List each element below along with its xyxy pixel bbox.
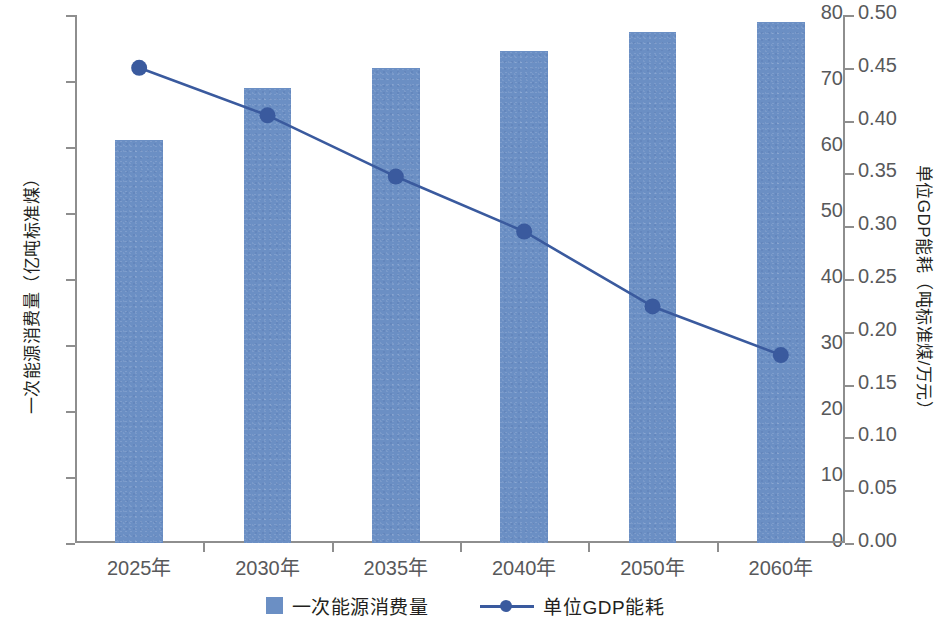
right-tick-mark [845, 437, 854, 439]
left-tick-mark [66, 81, 75, 83]
line-marker-circle-icon [773, 347, 789, 363]
x-tick-mark [332, 543, 334, 552]
legend-line-marker-icon [480, 597, 534, 614]
x-tick-label: 2025年 [79, 552, 199, 581]
line-markers [131, 60, 789, 363]
right-tick-mark [845, 332, 854, 334]
x-tick-mark [717, 543, 719, 552]
legend-label-bar: 一次能源消费量 [292, 592, 429, 617]
left-tick-mark [66, 213, 75, 215]
right-tick-mark [845, 121, 854, 123]
right-tick-mark [845, 543, 854, 545]
line-series-gdp-energy-intensity [75, 15, 845, 543]
line-polyline [139, 68, 781, 355]
right-tick-label: 0.35 [858, 159, 928, 182]
left-tick-mark [66, 411, 75, 413]
left-tick-mark [66, 279, 75, 281]
right-tick-label: 0.50 [858, 1, 928, 24]
right-tick-label: 0.20 [858, 318, 928, 341]
chart-legend: 一次能源消费量 单位GDP能耗 [0, 592, 930, 617]
legend-item-bar: 一次能源消费量 [266, 592, 429, 617]
right-tick-mark [845, 279, 854, 281]
right-tick-mark [845, 385, 854, 387]
right-tick-label: 0.25 [858, 265, 928, 288]
left-tick-mark [66, 345, 75, 347]
line-marker-circle-icon [388, 169, 404, 185]
line-marker-circle-icon [260, 107, 276, 123]
right-tick-mark [845, 68, 854, 70]
x-tick-label: 2060年 [721, 552, 841, 581]
left-tick-mark [66, 477, 75, 479]
right-tick-mark [845, 226, 854, 228]
line-marker-circle-icon [131, 60, 147, 76]
right-tick-label: 0.00 [858, 529, 928, 552]
x-tick-label: 2050年 [593, 552, 713, 581]
legend-square-icon [266, 597, 283, 614]
right-tick-mark [845, 173, 854, 175]
right-tick-label: 0.40 [858, 107, 928, 130]
right-tick-label: 0.45 [858, 54, 928, 77]
x-tick-label: 2030年 [208, 552, 328, 581]
x-tick-label: 2040年 [464, 552, 584, 581]
left-tick-mark [66, 543, 75, 545]
legend-item-line: 单位GDP能耗 [480, 592, 664, 617]
x-tick-label: 2035年 [336, 552, 456, 581]
right-tick-mark [845, 15, 854, 17]
right-tick-mark [845, 490, 854, 492]
x-tick-mark [588, 543, 590, 552]
x-tick-mark [460, 543, 462, 552]
line-marker-circle-icon [516, 223, 532, 239]
x-tick-mark [203, 543, 205, 552]
right-tick-label: 0.15 [858, 371, 928, 394]
legend-label-line: 单位GDP能耗 [543, 592, 664, 617]
right-tick-label: 0.10 [858, 423, 928, 446]
line-marker-circle-icon [645, 298, 661, 314]
left-tick-mark [66, 147, 75, 149]
right-tick-label: 0.30 [858, 212, 928, 235]
left-axis-title: 一次能源消费量（亿吨标准煤） [18, 112, 43, 472]
plot-area [75, 15, 845, 543]
left-tick-mark [66, 15, 75, 17]
right-tick-label: 0.05 [858, 476, 928, 499]
